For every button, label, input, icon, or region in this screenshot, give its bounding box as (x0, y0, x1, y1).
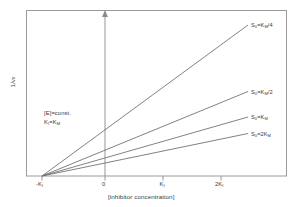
x-tick-label-neg-ki: -KI (36, 181, 43, 188)
series-label-s0-km-over-2: S0=KM/2 (251, 89, 273, 96)
series-line-s0-km-over-4 (42, 25, 248, 176)
y-axis-title: 1/v0 (10, 77, 17, 87)
x-axis-title: [inhibitor concentration] (108, 193, 174, 200)
series-label-s0-km-over-4: S0=KM/4 (251, 22, 273, 29)
vertical-axis-arrow-icon (102, 10, 108, 17)
plot-canvas (0, 0, 301, 207)
annotation-enzyme-const: [E]=const. (44, 109, 71, 117)
x-tick-label-zero: 0 (102, 181, 105, 187)
dixon-plot-figure: 1/v0 -KI 0 KI 2KI [inhibitor concentrati… (0, 0, 301, 207)
series-line-s0-2km (42, 134, 248, 177)
series-label-s0-2km: S0=2KM (251, 131, 271, 138)
series-line-s0-km-over-2 (42, 92, 248, 177)
y-axis-title-wrapper: 1/v0 (6, 62, 20, 102)
plot-frame (27, 11, 287, 177)
x-tick-label-2ki: 2KI (215, 181, 224, 188)
series-label-s0-km: S0=KM (251, 114, 268, 121)
annotation-ki-equals-km: KI=KM (44, 118, 60, 128)
series-line-s0-km (42, 117, 248, 176)
x-tick-label-ki: KI (160, 181, 165, 188)
